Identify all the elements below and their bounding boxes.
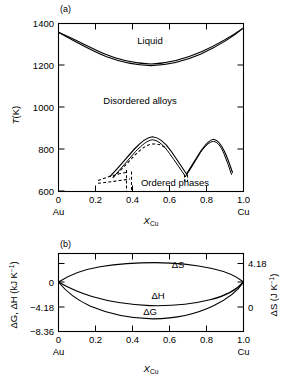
panel-b-yaxis-left-title: ΔG, ΔH (kJ K−1) — [8, 261, 20, 328]
ordered-dome-left-outer — [110, 137, 187, 177]
panel-a-endmember-au: Au — [53, 206, 65, 217]
panel-b-ytick-right-0: 0 — [248, 302, 253, 313]
panel-a: (a) 1400 1200 1000 800 600 T(K) — [10, 4, 250, 227]
panel-a-xaxis-subscript: Cu — [150, 220, 159, 227]
panel-a-ytick-1400: 1400 — [33, 18, 54, 29]
panel-a-ytick-1000: 1000 — [33, 102, 54, 113]
ordered-dome-right-inner — [186, 141, 232, 176]
panel-a-xtick-08: 0.8 — [200, 194, 213, 205]
panel-a-xaxis-title: XCu — [143, 215, 159, 227]
panel-b-ytick-right-418: 4.18 — [248, 258, 267, 269]
panel-a-yaxis-title-units: (K) — [10, 106, 21, 119]
region-label-liquid: Liquid — [137, 35, 162, 46]
panel-b-ytick-left-neg836: −8.36 — [30, 326, 54, 337]
panel-b-xtick-08: 0.8 — [200, 334, 213, 345]
region-label-disordered-alloys: Disordered alloys — [103, 95, 177, 106]
panel-b-endmember-cu: Cu — [237, 346, 249, 357]
solidus-curve — [59, 28, 244, 66]
svg-text:T(K): T(K) — [10, 106, 21, 124]
panel-b-xtick-04: 0.4 — [126, 334, 139, 345]
metastable-boundary-lower-dashed — [98, 179, 130, 183]
panel-a-ytick-800: 800 — [38, 144, 54, 155]
au-cu-figure: (a) 1400 1200 1000 800 600 T(K) — [0, 0, 283, 384]
panel-b-left-ticks — [59, 264, 65, 332]
svg-text:ΔS (J K−1): ΔS (J K−1) — [268, 274, 280, 317]
panel-b-ytick-left-neg418: −4.18 — [30, 302, 54, 313]
curve-label-delta-s: ΔS — [172, 259, 185, 270]
panel-b-ytick-left-0: 0 — [49, 277, 54, 288]
curve-label-delta-h: ΔH — [151, 290, 164, 301]
panel-b-yaxis-right-paren: ) — [268, 274, 279, 277]
panel-a-x-ticks — [96, 24, 207, 192]
region-label-ordered-phases: Ordered phases — [141, 177, 209, 188]
figure-container: (a) 1400 1200 1000 800 600 T(K) — [0, 0, 283, 384]
panel-b-right-ticks — [238, 264, 244, 332]
panel-b-yaxis-right-text: ΔS (J K — [268, 284, 279, 317]
panel-a-xtick-04: 0.4 — [126, 194, 139, 205]
panel-b-xaxis-title: XCu — [143, 363, 159, 375]
panel-a-plot-frame — [59, 24, 244, 192]
panel-b-yaxis-right-title: ΔS (J K−1) — [268, 274, 280, 317]
panel-a-yaxis-title: T(K) — [10, 106, 21, 124]
ordered-dome-left-inner — [113, 140, 186, 178]
panel-a-xtick-0: 0 — [56, 194, 61, 205]
panel-b-xtick-06: 0.6 — [163, 334, 176, 345]
delta-s-curve — [59, 263, 244, 282]
panel-b-yaxis-left-text: ΔG, ΔH (kJ K — [8, 271, 19, 328]
panel-a-ytick-600: 600 — [38, 186, 54, 197]
ordered-dome-left-dashed — [113, 144, 166, 178]
panel-b-xtick-0: 0 — [56, 334, 61, 345]
panel-a-xtick-06: 0.6 — [163, 194, 176, 205]
panel-a-label: (a) — [60, 4, 71, 14]
panel-a-endmember-cu: Cu — [237, 206, 249, 217]
panel-b-label: (b) — [60, 239, 71, 249]
panel-a-xtick-10: 1.0 — [237, 194, 250, 205]
svg-text:ΔG, ΔH (kJ K−1): ΔG, ΔH (kJ K−1) — [8, 261, 20, 328]
panel-a-ytick-1200: 1200 — [33, 60, 54, 71]
panel-b-endmember-au: Au — [53, 346, 65, 357]
panel-a-xtick-02: 0.2 — [89, 194, 102, 205]
panel-b-yaxis-left-paren: ) — [8, 261, 19, 264]
curve-label-delta-g: ΔG — [143, 306, 157, 317]
panel-b: (b) 0 −4.18 −8.36 4.18 0 ΔG, ΔH (kJ K−1) — [8, 239, 280, 375]
panel-b-xtick-10: 1.0 — [237, 334, 250, 345]
panel-a-y-ticks — [59, 24, 244, 192]
panel-b-xaxis-subscript: Cu — [150, 368, 159, 375]
panel-b-xtick-02: 0.2 — [89, 334, 102, 345]
